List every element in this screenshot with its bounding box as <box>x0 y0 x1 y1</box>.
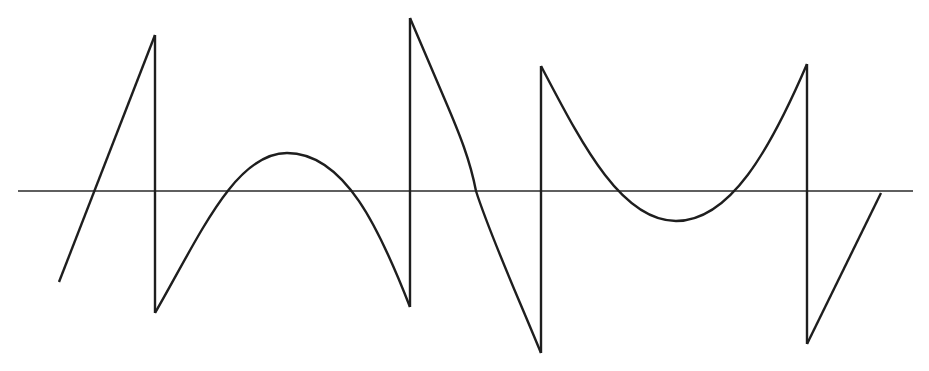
waveform-diagram <box>0 0 929 371</box>
final-rise-segment <box>807 193 881 344</box>
linear-rise-segment <box>59 35 155 282</box>
arch-segment <box>155 153 410 313</box>
waveform-svg <box>0 0 929 371</box>
linear-fall-segment <box>410 18 541 353</box>
bowl-segment <box>541 64 807 221</box>
